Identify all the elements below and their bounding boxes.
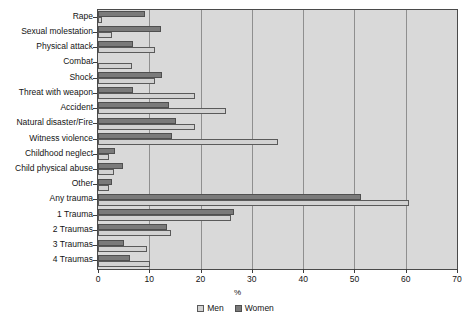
bar-men [98, 63, 132, 69]
bar-men [98, 108, 226, 114]
y-axis-label: Other [72, 179, 93, 188]
y-axis-label: Rape [73, 12, 93, 21]
bar-group [98, 208, 457, 223]
x-axis-tick [201, 269, 202, 273]
y-axis-label: Child physical abuse [15, 164, 93, 173]
bar-men [98, 47, 155, 53]
legend-label: Women [245, 303, 274, 313]
x-axis-tick-label: 0 [83, 274, 113, 284]
y-axis-label: Physical attack [36, 42, 93, 51]
x-axis-tick [354, 269, 355, 273]
y-axis-label: Threat with weapon [19, 88, 93, 97]
y-axis-label: Childhood neglect [25, 149, 93, 158]
bar-group [98, 101, 457, 116]
y-axis-label: 1 Trauma [57, 210, 93, 219]
bar-men [98, 124, 195, 130]
bar-men [98, 93, 195, 99]
x-axis-tick [252, 269, 253, 273]
bar-rows [98, 10, 457, 269]
chart-figure: RapeSexual molestationPhysical attackCom… [0, 0, 471, 320]
x-axis-tick [457, 269, 458, 273]
legend-swatch-icon [235, 305, 242, 312]
bar-men [98, 169, 114, 175]
y-axis-label: Shock [69, 73, 93, 82]
bar-men [98, 139, 278, 145]
x-axis-tick [303, 269, 304, 273]
y-axis-label: 2 Traumas [53, 225, 93, 234]
bar-men [98, 17, 102, 23]
bar-group [98, 56, 457, 71]
bar-men [98, 230, 171, 236]
x-axis-tick-label: 70 [442, 274, 471, 284]
x-axis-tick-labels: 010203040506070 [0, 274, 471, 286]
x-axis-tick-label: 50 [339, 274, 369, 284]
y-axis-label: Witness violence [29, 134, 93, 143]
bar-group [98, 223, 457, 238]
x-axis-tick-label: 40 [288, 274, 318, 284]
y-axis-label: 4 Traumas [53, 255, 93, 264]
x-axis-title: % [0, 288, 471, 297]
bar-group [98, 162, 457, 177]
legend-item-women[interactable]: Women [235, 303, 274, 313]
x-axis-tick [98, 269, 99, 273]
bar-men [98, 32, 112, 38]
y-axis-label: Any trauma [50, 194, 93, 203]
bar-men [98, 246, 147, 252]
legend-item-men[interactable]: Men [197, 303, 224, 313]
x-axis-tick [149, 269, 150, 273]
x-axis-tick-label: 20 [186, 274, 216, 284]
bar-group [98, 132, 457, 147]
x-axis-tick-label: 10 [134, 274, 164, 284]
chart-legend: MenWomen [0, 303, 471, 313]
bar-group [98, 25, 457, 40]
x-axis-tick-label: 60 [391, 274, 421, 284]
legend-swatch-icon [197, 305, 204, 312]
bar-men [98, 261, 150, 267]
bar-group [98, 40, 457, 55]
bar-men [98, 200, 409, 206]
bar-men [98, 185, 109, 191]
bar-group [98, 254, 457, 269]
y-axis-label: Accident [60, 103, 93, 112]
bar-group [98, 10, 457, 25]
bar-men [98, 154, 109, 160]
y-axis-label: 3 Traumas [53, 240, 93, 249]
bar-group [98, 178, 457, 193]
x-axis-tick [406, 269, 407, 273]
x-axis-title-text: % [234, 288, 241, 297]
y-axis-label: Combat [63, 57, 93, 66]
bar-men [98, 78, 155, 84]
bar-group [98, 193, 457, 208]
bar-group [98, 147, 457, 162]
bar-group [98, 71, 457, 86]
x-axis-tick-label: 30 [237, 274, 267, 284]
y-axis-label: Natural disaster/Fire [16, 118, 93, 127]
plot-area [97, 9, 458, 270]
bar-group [98, 117, 457, 132]
legend-label: Men [207, 303, 224, 313]
bar-group [98, 239, 457, 254]
bar-men [98, 215, 231, 221]
y-axis-labels: RapeSexual molestationPhysical attackCom… [0, 9, 93, 268]
bar-group [98, 86, 457, 101]
bar-women [98, 11, 145, 17]
y-axis-label: Sexual molestation [21, 27, 93, 36]
